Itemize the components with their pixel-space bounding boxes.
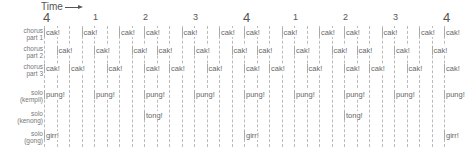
grid-line xyxy=(294,26,295,147)
grid-line xyxy=(57,26,58,147)
grid-line xyxy=(94,26,95,147)
note: cak! xyxy=(244,28,260,37)
beat-label: 4 xyxy=(443,10,450,25)
note: pung! xyxy=(144,90,165,99)
note: cak! xyxy=(382,28,398,37)
note: cak! xyxy=(432,46,448,55)
note: cak! xyxy=(319,28,335,37)
note: tong! xyxy=(344,111,363,120)
note: cak! xyxy=(344,64,360,73)
grid-line xyxy=(232,26,233,147)
note: cak! xyxy=(357,46,373,55)
grid-line xyxy=(332,26,333,147)
row-label: chorus part 1 xyxy=(23,27,43,41)
row-label: chorus part 3 xyxy=(23,63,43,77)
grid-line xyxy=(269,26,270,147)
note: cak! xyxy=(194,46,210,55)
note: cak! xyxy=(107,64,123,73)
grid-line xyxy=(107,26,108,147)
beat-label: 4 xyxy=(43,10,50,25)
beat-label: 2 xyxy=(143,12,148,22)
grid-line xyxy=(357,26,358,147)
note: cak! xyxy=(294,46,310,55)
note: cak! xyxy=(269,64,285,73)
beat-label: 2 xyxy=(343,12,348,22)
grid-line xyxy=(132,26,133,147)
note: cak! xyxy=(44,64,60,73)
note: cak! xyxy=(57,46,73,55)
note: cak! xyxy=(119,28,135,37)
grid-line xyxy=(207,26,208,147)
note: cak! xyxy=(257,46,273,55)
grid-line xyxy=(144,26,145,147)
grid-line xyxy=(344,26,345,147)
beat-label: 1 xyxy=(93,12,98,22)
grid-line xyxy=(169,26,170,147)
grid-line xyxy=(257,26,258,147)
note: cak! xyxy=(444,28,460,37)
beat-label: 4 xyxy=(243,10,250,25)
note: pung! xyxy=(44,90,65,99)
note: cak! xyxy=(232,46,248,55)
note: cak! xyxy=(132,46,148,55)
note: cak! xyxy=(344,28,360,37)
note: cak! xyxy=(244,64,260,73)
beat-label: 3 xyxy=(193,12,198,22)
note: cak! xyxy=(369,64,385,73)
row-label: solo (gong) xyxy=(24,130,43,144)
grid-line xyxy=(444,26,445,147)
kecak-rhythm-diagram: Time 412341234 chorus part 1cak!cak!cak!… xyxy=(0,0,476,151)
grid-line xyxy=(119,26,120,147)
grid-line xyxy=(407,26,408,147)
beat-label: 3 xyxy=(393,12,398,22)
grid-line xyxy=(369,26,370,147)
right-arrow-icon xyxy=(65,7,79,8)
note: cak! xyxy=(94,46,110,55)
grid-line xyxy=(44,26,45,147)
note: cak! xyxy=(394,46,410,55)
grid-line xyxy=(69,26,70,147)
beat-label: 1 xyxy=(293,12,298,22)
note: pung! xyxy=(94,90,115,99)
note: cak! xyxy=(44,28,60,37)
note: cak! xyxy=(82,28,98,37)
note: cak! xyxy=(69,64,85,73)
row-label: solo (kenong) xyxy=(17,110,43,124)
note: pung! xyxy=(244,90,265,99)
grid-line xyxy=(282,26,283,147)
note: cak! xyxy=(407,64,423,73)
grid-line xyxy=(382,26,383,147)
note: girr! xyxy=(444,131,459,140)
grid-line xyxy=(182,26,183,147)
note: cak! xyxy=(182,28,198,37)
note: cak! xyxy=(444,64,460,73)
note: cak! xyxy=(157,46,173,55)
note: pung! xyxy=(394,90,415,99)
note: tong! xyxy=(144,111,163,120)
note: cak! xyxy=(144,64,160,73)
note: cak! xyxy=(219,28,235,37)
row-label: chorus part 2 xyxy=(23,45,43,59)
grid-line xyxy=(82,26,83,147)
note: girr! xyxy=(244,131,259,140)
note: cak! xyxy=(419,28,435,37)
note: girr! xyxy=(44,131,59,140)
grid-line xyxy=(219,26,220,147)
grid-line xyxy=(394,26,395,147)
grid-line xyxy=(157,26,158,147)
note: cak! xyxy=(169,64,185,73)
row-label: solo (kempli) xyxy=(20,89,43,103)
note: pung! xyxy=(294,90,315,99)
note: pung! xyxy=(344,90,365,99)
grid-line xyxy=(419,26,420,147)
note: pung! xyxy=(194,90,215,99)
note: cak! xyxy=(307,64,323,73)
grid-line xyxy=(432,26,433,147)
note: cak! xyxy=(207,64,223,73)
note: cak! xyxy=(144,28,160,37)
note: cak! xyxy=(282,28,298,37)
grid-line xyxy=(319,26,320,147)
grid-line xyxy=(244,26,245,147)
grid-line xyxy=(307,26,308,147)
note: cak! xyxy=(332,46,348,55)
